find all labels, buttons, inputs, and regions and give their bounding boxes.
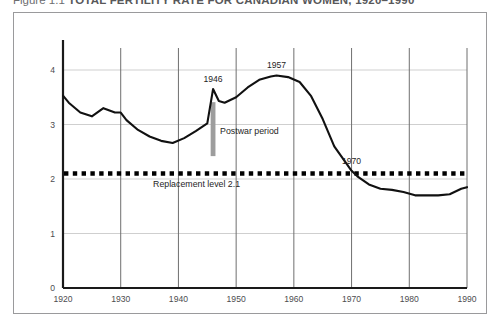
annotation-1957: 1957 [267,60,286,70]
vertical-gridlines [121,48,467,288]
x-axis-tick-labels: 19201930194019501960197019801990 [53,294,476,304]
y-tick-label-0: 0 [50,283,55,293]
x-tick-label-1940: 1940 [169,294,188,304]
horizontal-gridlines [63,70,467,234]
x-tick-label-1930: 1930 [111,294,130,304]
fertility-rate-chart: 01234 19201930194019501960197019801990 1… [0,0,502,326]
annotation-1946: 1946 [203,74,222,84]
x-tick-label-1970: 1970 [342,294,361,304]
y-tick-label-3: 3 [50,120,55,130]
x-tick-label-1990: 1990 [457,294,476,304]
y-axis-tick-labels: 01234 [50,65,55,293]
y-tick-label-2: 2 [50,174,55,184]
annotation-1970: 1970 [342,156,361,166]
chart-inline-labels: Replacement level 2.1Postwar period [153,126,279,189]
y-tick-label-1: 1 [50,229,55,239]
x-tick-label-1980: 1980 [400,294,419,304]
x-tick-label-1920: 1920 [53,294,72,304]
postwar-period-label: Postwar period [220,126,279,136]
x-tick-label-1960: 1960 [284,294,303,304]
postwar-period-bar [211,102,216,156]
postwar-period-marker [211,102,216,156]
replacement-level-label: Replacement level 2.1 [153,179,240,189]
y-tick-label-4: 4 [50,65,55,75]
x-tick-label-1950: 1950 [227,294,246,304]
